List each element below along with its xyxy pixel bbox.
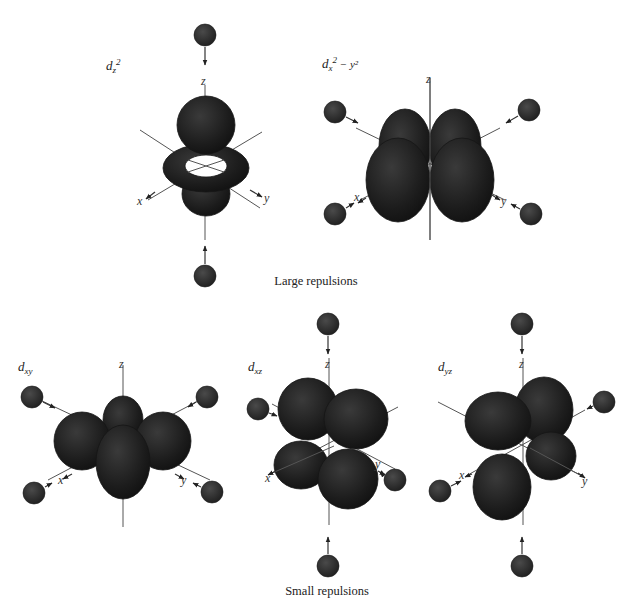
ligand-left bbox=[429, 480, 451, 502]
orbital-dx2-y2: dx2 − y² x y z bbox=[322, 55, 542, 240]
ligand-arrow bbox=[346, 203, 354, 208]
ligand-arrow bbox=[43, 402, 55, 408]
x-axis-label: x bbox=[57, 473, 64, 487]
lobe-lower-right bbox=[318, 449, 378, 509]
ligand-top bbox=[511, 313, 533, 335]
ligand-upper-left bbox=[324, 101, 346, 123]
ligand-arrow bbox=[188, 402, 196, 407]
z-axis-label: z bbox=[518, 357, 524, 371]
ligand-lower-right bbox=[520, 203, 542, 225]
ligand-arrow bbox=[346, 117, 358, 123]
ligand-arrow bbox=[45, 483, 52, 487]
ligand-lower-left bbox=[23, 482, 45, 504]
ligand-arrow bbox=[451, 481, 461, 486]
y-axis-arrow bbox=[250, 190, 262, 197]
y-axis-label: y bbox=[263, 191, 270, 205]
ligand-lower-right bbox=[201, 481, 223, 503]
lobe-front-right bbox=[430, 138, 494, 222]
orbital-label-dx2-y2: dx2 − y² bbox=[322, 55, 359, 73]
z-axis-label: z bbox=[118, 357, 124, 371]
lobe-front-left bbox=[366, 138, 430, 222]
ligand-upper-right bbox=[518, 99, 540, 121]
orbital-label-dxz: dxz bbox=[248, 359, 262, 376]
lobe-lower-left bbox=[473, 454, 531, 520]
x-axis-label: x bbox=[136, 194, 143, 208]
ligand-arrow bbox=[511, 204, 520, 209]
lobe-lower-right bbox=[526, 432, 576, 480]
orbital-dxz: dxz x y z bbox=[247, 313, 406, 577]
x-axis-label: x bbox=[353, 190, 360, 204]
ligand-left bbox=[247, 398, 269, 420]
orbital-label-dz2: dz2 bbox=[106, 57, 121, 75]
ligand-right bbox=[593, 391, 615, 413]
y-axis-label: y bbox=[180, 473, 187, 487]
orbital-label-dxy: dxy bbox=[18, 359, 33, 376]
z-axis-label: z bbox=[200, 74, 206, 88]
ligand-upper-left bbox=[21, 386, 43, 408]
ligand-arrow bbox=[269, 413, 277, 416]
ligand-right bbox=[384, 469, 406, 491]
ligand-lower-left bbox=[324, 203, 346, 225]
y-axis-label: y bbox=[374, 457, 381, 471]
ligand-top bbox=[317, 313, 339, 335]
lobe-top bbox=[177, 96, 235, 154]
orbital-dxy: dxy x y z bbox=[18, 357, 223, 527]
ligand-upper-right bbox=[196, 386, 218, 408]
x-axis-label: x bbox=[264, 471, 271, 485]
ligand-bottom bbox=[194, 265, 216, 287]
y-axis-label: y bbox=[581, 474, 588, 488]
z-axis-label: z bbox=[324, 357, 330, 371]
ligand-top bbox=[194, 24, 216, 46]
caption-large-repulsions: Large repulsions bbox=[274, 274, 358, 288]
ligand-bottom bbox=[511, 555, 533, 577]
ligand-arrow bbox=[506, 116, 518, 123]
ligand-arrow bbox=[193, 483, 201, 487]
orbital-dyz: dyz x y z bbox=[429, 313, 615, 577]
x-axis-arrow bbox=[63, 474, 72, 479]
ligand-bottom bbox=[317, 555, 339, 577]
y-axis-label: y bbox=[500, 194, 507, 208]
ligand-arrow bbox=[587, 406, 593, 409]
x-axis-label: x bbox=[458, 468, 465, 482]
caption-small-repulsions: Small repulsions bbox=[285, 584, 369, 598]
lobe-upper-left bbox=[465, 392, 531, 450]
lobe-upper-right bbox=[324, 389, 388, 449]
orbital-dz2: dz2 x y z bbox=[106, 24, 270, 287]
lobe-front bbox=[96, 425, 150, 499]
orbital-label-dyz: dyz bbox=[438, 359, 452, 376]
z-axis-label: z bbox=[425, 72, 431, 86]
d-orbital-diagram: dz2 x y z dx2 − y² bbox=[0, 0, 633, 604]
